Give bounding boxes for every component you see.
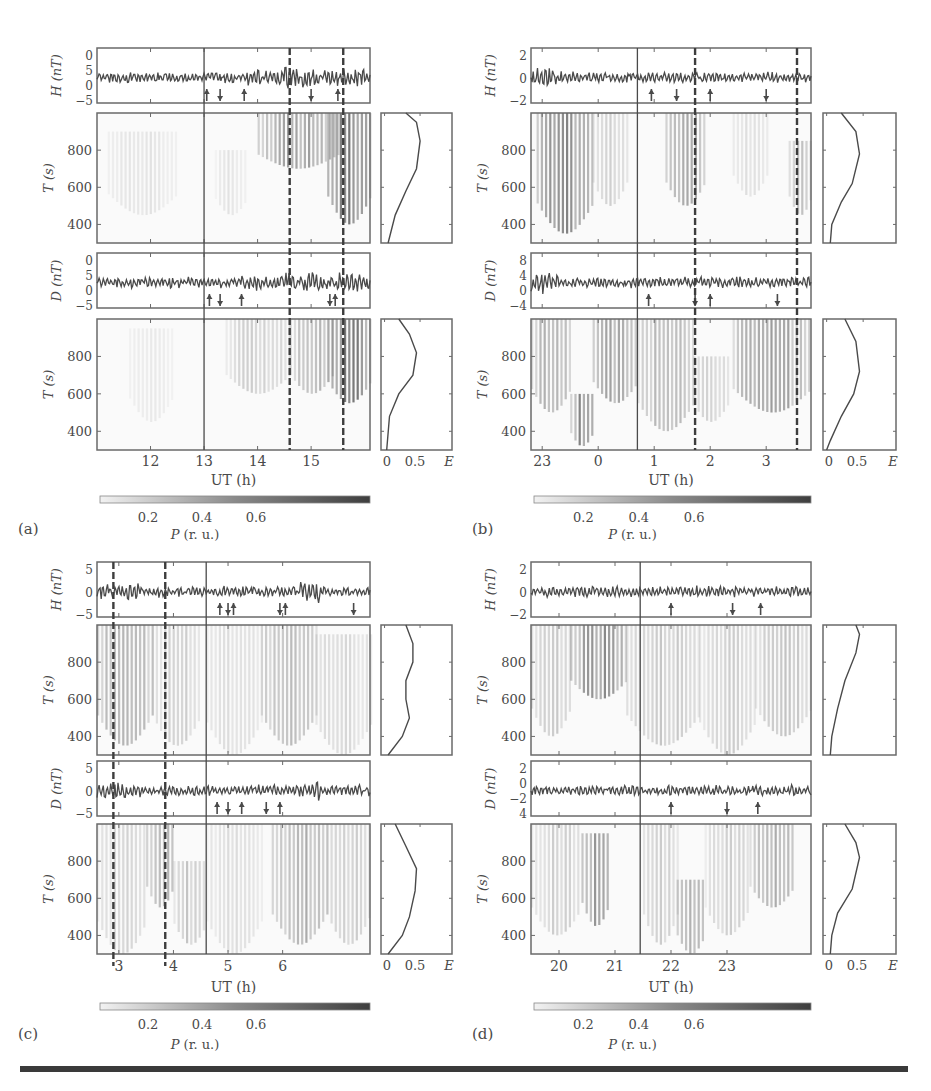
spectral-stripe — [316, 113, 318, 165]
spectral-stripe — [357, 634, 359, 745]
spectral-stripe — [223, 824, 225, 948]
spectral-stripe — [305, 824, 307, 943]
spectral-stripe — [147, 625, 149, 723]
spectral-stripe — [168, 625, 170, 742]
spectral-stripe — [269, 625, 271, 730]
spectral-stripe — [308, 113, 310, 168]
spectral-stripe — [353, 634, 355, 749]
spectral-stripe — [307, 625, 309, 730]
spectral-stripe — [162, 132, 164, 208]
spectral-stripe — [712, 625, 714, 744]
spectral-stripe — [587, 113, 589, 213]
spectral-stripe — [581, 833, 583, 903]
spectral-stripe — [741, 113, 743, 191]
spectral-stripe — [181, 625, 183, 744]
spectral-stripe — [143, 625, 145, 730]
y-tick-label: 800 — [67, 349, 92, 364]
colorbar-tick-label: 0.6 — [684, 510, 705, 525]
spectral-stripe — [125, 132, 127, 209]
d-strip: 840−4D (nT) — [483, 253, 811, 313]
spectral-stripe — [137, 132, 139, 215]
spectral-stripe — [702, 356, 704, 417]
spectral-stripe — [670, 113, 672, 190]
spectral-stripe — [261, 625, 263, 716]
y-tick-label: 400 — [67, 424, 92, 439]
spectral-stripe — [569, 319, 571, 392]
spectral-stripe — [647, 625, 649, 739]
spectral-stripe — [139, 625, 141, 736]
spectral-stripe — [304, 113, 306, 168]
colorbar-bar — [100, 496, 370, 503]
x-tick-label: 15 — [302, 453, 320, 469]
spectral-stripe — [762, 319, 764, 411]
colorbar: 0.20.40.6P (r. u.) — [534, 1003, 811, 1052]
spectral-stripe — [741, 319, 743, 397]
colorbar-bar — [534, 1003, 811, 1010]
spectral-stripe — [167, 328, 169, 407]
spectral-stripe — [698, 356, 700, 411]
colorbar-label-unit: (r. u.) — [617, 527, 657, 542]
spectral-stripe — [618, 319, 620, 403]
spectral-stripe — [579, 394, 581, 445]
spectral-stripe — [793, 625, 795, 732]
spectral-stripe — [714, 356, 716, 420]
spectral-stripe — [231, 625, 233, 755]
spectral-stripe — [273, 625, 275, 736]
spectral-stripe — [665, 113, 667, 183]
spectral-stripe — [331, 319, 333, 389]
panel-a: 050−5H (nT)800600400T (s)050−5D (nT)8006… — [18, 48, 454, 542]
x-axis-label: UT (h) — [211, 472, 257, 488]
spectral-stripe — [805, 625, 807, 717]
colorbar-tick-label: 0.4 — [192, 510, 213, 525]
spectral-stripe — [583, 113, 585, 219]
y-tick-label: 800 — [501, 349, 526, 364]
spectral-stripe — [112, 132, 114, 199]
spectral-stripe — [146, 328, 148, 420]
spectral-stripe — [672, 625, 674, 743]
spectral-stripe — [598, 833, 600, 925]
spectral-stripe — [552, 824, 554, 935]
spectral-stripe — [199, 861, 201, 938]
e-profile-h-frame — [823, 625, 896, 755]
spectral-stripe — [150, 328, 152, 422]
y-tick-label: −2 — [509, 94, 527, 108]
spectral-stripe — [776, 625, 778, 734]
x-tick-label: 14 — [249, 453, 267, 469]
y-tick-label: 600 — [501, 387, 526, 402]
spectral-stripe — [146, 824, 148, 887]
spectral-stripe — [259, 319, 261, 394]
spectral-stripe — [742, 824, 744, 921]
spectral-stripe — [327, 113, 329, 197]
spectral-stripe — [674, 113, 676, 197]
spectral-stripe — [535, 319, 537, 397]
spectral-stripe — [352, 113, 354, 223]
spectral-stripe — [291, 113, 293, 168]
y-tick-label: 400 — [67, 729, 92, 744]
spectral-stripe — [159, 328, 161, 418]
spectral-stripe — [681, 625, 683, 737]
y-tick-label: 0 — [519, 284, 527, 298]
spectral-stripe — [614, 113, 616, 204]
spectral-stripe — [630, 625, 632, 721]
spectral-stripe — [608, 625, 610, 697]
spectral-stripe — [660, 625, 662, 746]
spectral-stripe — [745, 319, 747, 401]
spectral-stripe — [223, 625, 225, 749]
y-tick-label: 600 — [67, 180, 92, 195]
e-axis-label: E — [887, 958, 898, 973]
spectral-stripe — [579, 113, 581, 225]
spectral-stripe — [622, 113, 624, 192]
spectral-stripe — [569, 824, 571, 927]
y-tick-label: −2 — [509, 792, 527, 806]
spectral-stripe — [601, 319, 603, 394]
spectral-stripe — [801, 625, 803, 723]
spectral-stripe — [583, 625, 585, 693]
y-tick-label: 5 — [85, 64, 93, 78]
spectral-stripe — [730, 824, 732, 935]
spectral-stripe — [605, 319, 607, 398]
y-tick-label: 600 — [501, 692, 526, 707]
spectral-stripe — [733, 625, 735, 753]
spectral-stripe — [749, 319, 751, 404]
d-strip-ylabel: D (nT) — [483, 768, 498, 811]
spectral-stripe — [295, 113, 297, 169]
